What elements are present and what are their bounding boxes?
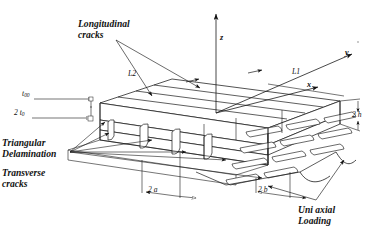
dimension-2t0 [32,106,93,121]
label-longitudinal-cracks: Longitudinal cracks [78,19,130,40]
label-dimension-t00: t00 [22,90,30,99]
label-triangular-delamination: Triangular Delamination [2,138,56,159]
label-dimension-2a: 2 a [148,186,158,195]
t00-subscript: 00 [24,92,29,98]
dimension-t00 [34,97,93,108]
label-uni-axial-loading: Uni axial Loading [298,205,335,226]
label-transverse-cracks: Transverse cracks [2,168,45,189]
label-dimension-2b: 2 b [258,186,268,195]
axis-minor-ticks [186,70,262,82]
leader-uniaxial-loading [268,160,344,200]
label-length-L2: L2 [128,70,136,79]
2t0-base: 2 t [14,108,22,117]
label-length-L1: L1 [292,68,300,77]
label-axis-z: z [220,33,223,42]
label-dimension-2h: 2 h [352,111,362,120]
figure-canvas: Longitudinal cracks Triangular Delaminat… [0,0,377,233]
label-axis-x: x [307,80,311,89]
label-dimension-2t0: 2 t0 [14,109,25,118]
scan-artifact-speck [357,41,359,43]
composite-plate-diagram [0,0,377,233]
2t0-subscript: 0 [22,111,25,117]
label-axis-y: y [345,48,349,57]
